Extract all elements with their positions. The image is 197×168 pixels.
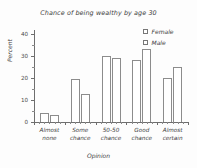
chart-title: Chance of being wealthy by age 30 — [0, 9, 197, 17]
x-minor-tick — [49, 122, 50, 124]
x-minor-tick — [101, 122, 102, 124]
x-tick — [34, 122, 35, 125]
x-minor-tick — [137, 122, 138, 124]
bar-male — [173, 67, 182, 122]
x-tick — [96, 122, 97, 125]
x-tick — [126, 122, 127, 125]
x-category-label-line: chance — [65, 135, 96, 143]
open-square-marker-icon — [143, 40, 148, 45]
y-tick-label: 0 — [24, 119, 28, 125]
y-minor-tick — [32, 45, 35, 46]
x-minor-tick — [39, 122, 40, 124]
x-category-label: Somechance — [65, 127, 96, 142]
chart-legend: Female Male — [143, 28, 195, 49]
y-tick: 40 — [31, 34, 35, 35]
x-category-label: Almostnone — [34, 127, 65, 142]
x-category-label-line: none — [34, 135, 65, 143]
y-minor-tick — [32, 67, 35, 68]
x-minor-tick — [111, 122, 112, 124]
x-tick — [157, 122, 158, 125]
x-category-label: 50-50chance — [96, 127, 127, 142]
x-category-label-line: Some — [65, 127, 96, 135]
x-minor-tick — [75, 122, 76, 124]
x-category-label-line: 50-50 — [96, 127, 127, 135]
bar-female — [40, 113, 49, 122]
x-category-label-line: certain — [157, 135, 188, 143]
legend-label: Male — [152, 39, 166, 46]
x-minor-tick — [80, 122, 81, 124]
y-tick-label: 20 — [21, 75, 28, 81]
bar-female — [132, 60, 141, 122]
x-minor-tick — [90, 122, 91, 124]
x-category-label-line: chance — [96, 135, 127, 143]
y-tick-label: 40 — [21, 31, 28, 37]
x-minor-tick — [60, 122, 61, 124]
x-minor-tick — [116, 122, 117, 124]
bar-female — [163, 78, 172, 122]
x-minor-tick — [167, 122, 168, 124]
bar-male — [81, 94, 90, 122]
x-minor-tick — [183, 122, 184, 124]
x-axis-title: Opinion — [0, 152, 197, 159]
bar-female — [71, 79, 80, 122]
y-tick: 10 — [31, 100, 35, 101]
x-minor-tick — [44, 122, 45, 124]
x-minor-tick — [121, 122, 122, 124]
y-tick: 20 — [31, 78, 35, 79]
x-minor-tick — [173, 122, 174, 124]
bar-female — [102, 56, 111, 122]
x-category-label-line: Good — [126, 127, 157, 135]
legend-label: Female — [152, 28, 174, 35]
x-minor-tick — [106, 122, 107, 124]
y-tick-label: 10 — [21, 97, 28, 103]
x-category-label-line: Almost — [34, 127, 65, 135]
open-square-marker-icon — [143, 29, 148, 34]
x-minor-tick — [152, 122, 153, 124]
x-minor-tick — [147, 122, 148, 124]
x-minor-tick — [142, 122, 143, 124]
x-category-label-line: chance — [126, 135, 157, 143]
bar-male — [142, 49, 151, 122]
bar-chart: Chance of being wealthy by age 30 Percen… — [0, 0, 197, 168]
y-tick-label: 30 — [21, 53, 28, 59]
y-minor-tick — [32, 89, 35, 90]
x-minor-tick — [162, 122, 163, 124]
x-category-label: Almostcertain — [157, 127, 188, 142]
x-minor-tick — [85, 122, 86, 124]
x-minor-tick — [55, 122, 56, 124]
legend-item-female: Female — [143, 28, 195, 35]
legend-item-male: Male — [143, 39, 195, 46]
x-tick — [188, 122, 189, 125]
bar-male — [50, 115, 59, 122]
x-minor-tick — [70, 122, 71, 124]
x-tick — [65, 122, 66, 125]
y-minor-tick — [32, 111, 35, 112]
x-minor-tick — [132, 122, 133, 124]
x-minor-tick — [178, 122, 179, 124]
y-axis-title: Percent — [6, 39, 13, 62]
x-category-label: Goodchance — [126, 127, 157, 142]
bar-male — [112, 58, 121, 122]
y-tick: 30 — [31, 56, 35, 57]
x-category-label-line: Almost — [157, 127, 188, 135]
